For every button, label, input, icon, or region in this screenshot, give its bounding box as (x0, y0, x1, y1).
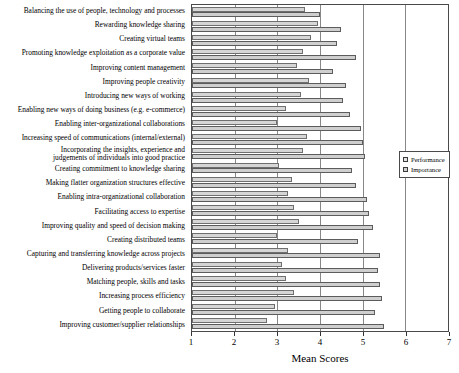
bar-importance (192, 12, 320, 17)
category-label: Enabling intra-organizational collaborat… (0, 190, 188, 204)
category-label: Introducing new ways of working (0, 89, 188, 103)
bar-row (192, 189, 448, 203)
bar-importance (192, 126, 361, 131)
bar-importance (192, 55, 356, 60)
category-label: Improving customer/supplier relationship… (0, 318, 188, 332)
bar-performance (192, 304, 275, 309)
category-label: Rewarding knowledge sharing (0, 18, 188, 32)
category-label: Enabling inter-organizational collaborat… (0, 117, 188, 131)
bar-row (192, 62, 448, 76)
bar-importance (192, 41, 337, 46)
bar-importance (192, 282, 380, 287)
bar-importance (192, 112, 350, 117)
bar-importance (192, 140, 363, 145)
x-axis-tick (320, 332, 321, 336)
legend-item-performance: Performance (403, 155, 445, 165)
bar-importance (192, 296, 382, 301)
bar-performance (192, 92, 301, 97)
bar-importance (192, 239, 358, 244)
bar-importance (192, 197, 367, 202)
category-label: Improving quality and speed of decision … (0, 219, 188, 233)
bar-row (192, 48, 448, 62)
x-axis-tick-label: 5 (361, 337, 366, 347)
bar-performance (192, 148, 303, 153)
legend-swatch-importance-icon (403, 167, 408, 172)
x-axis-label: Mean Scores (191, 352, 449, 364)
bar-row (192, 76, 448, 90)
x-axis-tick-label: 4 (318, 337, 323, 347)
bar-performance (192, 35, 311, 40)
bar-performance (192, 248, 288, 253)
bar-importance (192, 268, 378, 273)
x-axis-tick-label: 7 (447, 337, 452, 347)
legend-label-importance: Importance (411, 165, 441, 175)
bar-row (192, 33, 448, 47)
bar-performance (192, 262, 282, 267)
bar-performance (192, 233, 277, 238)
category-label: Matching people, skills and tasks (0, 275, 188, 289)
x-axis-tick-label: 6 (404, 337, 409, 347)
bar-row (192, 19, 448, 33)
bar-row (192, 260, 448, 274)
bar-row (192, 5, 448, 19)
bar-row (192, 218, 448, 232)
chart-legend: Performance Importance (399, 151, 450, 178)
bar-importance (192, 98, 343, 103)
bar-performance (192, 78, 309, 83)
bar-performance (192, 177, 292, 182)
category-label: Increasing speed of communications (inte… (0, 131, 188, 145)
category-label: Capturing and transferring knowledge acr… (0, 247, 188, 261)
bar-performance (192, 191, 288, 196)
bar-row (192, 90, 448, 104)
category-label: Increasing process efficiency (0, 290, 188, 304)
x-axis-tick (234, 332, 235, 336)
bar-row (192, 303, 448, 317)
bar-performance (192, 205, 294, 210)
x-axis-tick (449, 332, 450, 336)
category-label: Creating commitment to knowledge sharing (0, 162, 188, 176)
bar-row (192, 246, 448, 260)
bar-performance (192, 219, 299, 224)
legend-label-performance: Performance (411, 155, 445, 165)
bar-importance (192, 324, 384, 329)
bar-row (192, 288, 448, 302)
bar-performance (192, 21, 318, 26)
category-label: Getting people to collaborate (0, 304, 188, 318)
bar-performance (192, 106, 286, 111)
bar-performance (192, 163, 279, 168)
bar-performance (192, 120, 277, 125)
bar-importance (192, 183, 356, 188)
bar-performance (192, 49, 303, 54)
category-label: Making flatter organization structures e… (0, 176, 188, 190)
x-axis: 1234567 (191, 332, 449, 352)
bar-row (192, 118, 448, 132)
bar-importance (192, 211, 369, 216)
bar-row (192, 317, 448, 331)
bar-row (192, 203, 448, 217)
bar-row (192, 274, 448, 288)
x-axis-tick (191, 332, 192, 336)
legend-item-importance: Importance (403, 165, 445, 175)
category-label: Creating virtual teams (0, 32, 188, 46)
category-label: Improving content management (0, 61, 188, 75)
bar-importance (192, 83, 346, 88)
category-label: Incorporating the insights, experience a… (0, 146, 188, 163)
horizontal-bar-chart: Balancing the use of people, technology … (0, 0, 459, 373)
legend-swatch-performance-icon (403, 157, 408, 162)
category-axis-labels: Balancing the use of people, technology … (0, 4, 188, 332)
category-label: Balancing the use of people, technology … (0, 4, 188, 18)
category-label: Creating distributed teams (0, 233, 188, 247)
bar-performance (192, 276, 286, 281)
bar-importance (192, 69, 333, 74)
bar-performance (192, 134, 307, 139)
x-axis-tick (277, 332, 278, 336)
bar-row (192, 232, 448, 246)
x-axis-tick-label: 3 (275, 337, 280, 347)
x-axis-tick-label: 1 (189, 337, 194, 347)
x-axis-tick-label: 2 (232, 337, 237, 347)
bar-performance (192, 318, 267, 323)
bar-importance (192, 225, 373, 230)
bar-row (192, 104, 448, 118)
bar-importance (192, 27, 341, 32)
x-axis-tick (363, 332, 364, 336)
